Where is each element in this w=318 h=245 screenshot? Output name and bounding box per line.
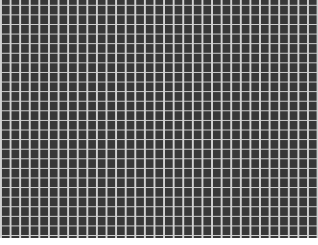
bottom-margin (0, 238, 318, 245)
grid-pattern (0, 0, 318, 238)
